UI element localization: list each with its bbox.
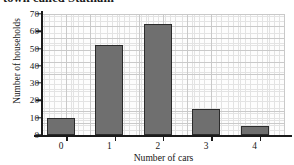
- x-tick-label: 3: [204, 141, 209, 151]
- x-tick-mark: [66, 135, 67, 141]
- x-tick-label: 0: [59, 141, 64, 151]
- x-tick-mark: [260, 135, 261, 141]
- x-tick-label: 2: [155, 141, 160, 151]
- y-tick-mark: [36, 65, 43, 66]
- y-tick-mark: [36, 100, 43, 101]
- y-tick-mark: [36, 117, 43, 118]
- plot-area: [42, 14, 285, 135]
- x-tick-label: 1: [107, 141, 112, 151]
- bar-0: [47, 118, 75, 135]
- y-tick-mark: [36, 13, 43, 14]
- bar-2: [144, 24, 172, 135]
- y-tick-mark: [36, 31, 43, 32]
- x-tick-mark: [115, 135, 116, 141]
- caption-strip: town called Statham: [0, 0, 294, 9]
- x-tick-label: 4: [252, 141, 257, 151]
- y-tick-mark: [36, 48, 43, 49]
- y-tick-mark: [36, 82, 43, 83]
- x-tick-mark: [163, 135, 164, 141]
- bar-3: [192, 109, 220, 135]
- bar-4: [241, 126, 269, 135]
- bar-1: [95, 45, 123, 135]
- x-axis-title: Number of cars: [42, 152, 285, 163]
- x-tick-mark: [211, 135, 212, 141]
- y-tick-mark: [36, 134, 43, 135]
- bar-chart-figure: Number of households 0 10 20 30 40 50 60…: [0, 9, 294, 165]
- chart-page: town called Statham Number of households…: [0, 0, 294, 165]
